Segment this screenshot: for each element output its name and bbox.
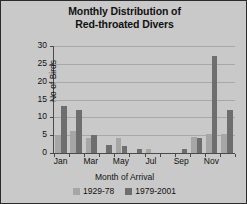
y-axis-tick-label: 30 bbox=[25, 41, 47, 50]
y-axis-tick-label: 5 bbox=[25, 130, 47, 139]
chart-title-line-2: Red-throated Divers bbox=[1, 18, 247, 31]
bar-mar-series-0[interactable] bbox=[86, 138, 91, 153]
x-axis-tick-label-jul: Jul bbox=[135, 156, 167, 166]
legend-label: 1929-78 bbox=[83, 187, 114, 196]
legend-item-series-0[interactable]: 1929-78 bbox=[73, 187, 114, 196]
y-axis-tick-label: 25 bbox=[25, 59, 47, 68]
legend-label: 1979-2001 bbox=[135, 187, 176, 196]
gridline bbox=[54, 82, 235, 83]
legend-swatch-icon bbox=[73, 188, 80, 195]
bar-nov-series-0[interactable] bbox=[206, 134, 211, 153]
chart-title: Monthly Distribution of Red-throated Div… bbox=[1, 5, 247, 31]
bar-may-series-1[interactable] bbox=[122, 146, 127, 153]
gridline bbox=[54, 64, 235, 65]
bar-dec-series-1[interactable] bbox=[227, 110, 232, 154]
x-axis-tick-mark bbox=[235, 154, 236, 157]
bar-sep-series-1[interactable] bbox=[182, 149, 187, 153]
y-axis-tick-mark bbox=[50, 46, 53, 47]
bar-oct-series-0[interactable] bbox=[191, 137, 196, 153]
chart-title-line-1: Monthly Distribution of bbox=[1, 5, 247, 18]
bar-mar-series-1[interactable] bbox=[91, 135, 96, 153]
y-axis-tick-mark bbox=[50, 117, 53, 118]
y-axis-tick-label: 15 bbox=[25, 95, 47, 104]
x-axis-title: Month of Arrival bbox=[1, 172, 247, 182]
bar-may-series-0[interactable] bbox=[116, 138, 121, 153]
x-axis-tick-label-nov: Nov bbox=[195, 156, 227, 166]
y-axis-tick-mark bbox=[50, 64, 53, 65]
bar-oct-series-1[interactable] bbox=[197, 138, 202, 153]
bar-feb-series-1[interactable] bbox=[76, 110, 81, 153]
bar-jan-series-1[interactable] bbox=[61, 106, 66, 153]
bar-jan-series-0[interactable] bbox=[55, 135, 60, 153]
y-axis-tick-label: 10 bbox=[25, 112, 47, 121]
x-axis-tick-label-may: May bbox=[105, 156, 137, 166]
bar-jun-series-1[interactable] bbox=[137, 149, 142, 153]
y-axis-tick-mark bbox=[50, 153, 53, 154]
plot-area: No of Birds bbox=[53, 46, 235, 154]
x-axis-tick-label-jan: Jan bbox=[45, 156, 77, 166]
y-axis-tick-mark bbox=[50, 100, 53, 101]
chart-container: Monthly Distribution of Red-throated Div… bbox=[0, 0, 247, 204]
y-axis-tick-mark bbox=[50, 135, 53, 136]
chart-legend: 1929-78 1979-2001 bbox=[1, 187, 247, 196]
gridline bbox=[54, 46, 235, 47]
bar-apr-series-1[interactable] bbox=[106, 145, 111, 153]
bar-nov-series-1[interactable] bbox=[212, 56, 217, 153]
y-axis-tick-mark bbox=[50, 82, 53, 83]
x-axis-tick-label-sep: Sep bbox=[165, 156, 197, 166]
bar-dec-series-0[interactable] bbox=[221, 134, 226, 153]
y-axis-tick-label: 20 bbox=[25, 77, 47, 86]
x-axis-tick-label-mar: Mar bbox=[75, 156, 107, 166]
legend-swatch-icon bbox=[125, 188, 132, 195]
bar-feb-series-0[interactable] bbox=[70, 131, 75, 153]
legend-item-series-1[interactable]: 1979-2001 bbox=[125, 187, 176, 196]
gridline bbox=[54, 100, 235, 101]
bar-jul-series-0[interactable] bbox=[146, 149, 151, 153]
